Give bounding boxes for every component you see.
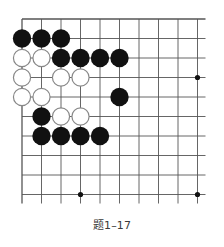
black-stone-icon — [32, 107, 50, 125]
white-stone-icon — [33, 49, 50, 66]
star-point-icon — [78, 192, 83, 197]
black-stone-icon — [52, 49, 70, 67]
white-stone-icon — [13, 69, 30, 86]
black-stone-icon — [13, 29, 31, 47]
black-stone-icon — [52, 29, 70, 47]
black-stone-icon — [71, 49, 89, 67]
black-stone-icon — [110, 49, 128, 67]
white-stone-icon — [72, 108, 89, 125]
white-stone-icon — [33, 88, 50, 105]
white-stone-icon — [72, 69, 89, 86]
black-stone-icon — [32, 29, 50, 47]
black-stone-icon — [52, 127, 70, 145]
black-stone-icon — [71, 127, 89, 145]
board-grid — [22, 19, 206, 204]
go-board — [0, 0, 224, 212]
white-stone-icon — [52, 108, 69, 125]
star-point-icon — [195, 75, 200, 80]
black-stone-icon — [110, 88, 128, 106]
black-stone-icon — [32, 127, 50, 145]
white-stone-icon — [13, 49, 30, 66]
white-stone-icon — [52, 69, 69, 86]
stones — [13, 29, 129, 145]
black-stone-icon — [91, 127, 109, 145]
black-stone-icon — [91, 49, 109, 67]
star-point-icon — [195, 192, 200, 197]
problem-caption: 题1–17 — [0, 216, 224, 232]
white-stone-icon — [13, 88, 30, 105]
